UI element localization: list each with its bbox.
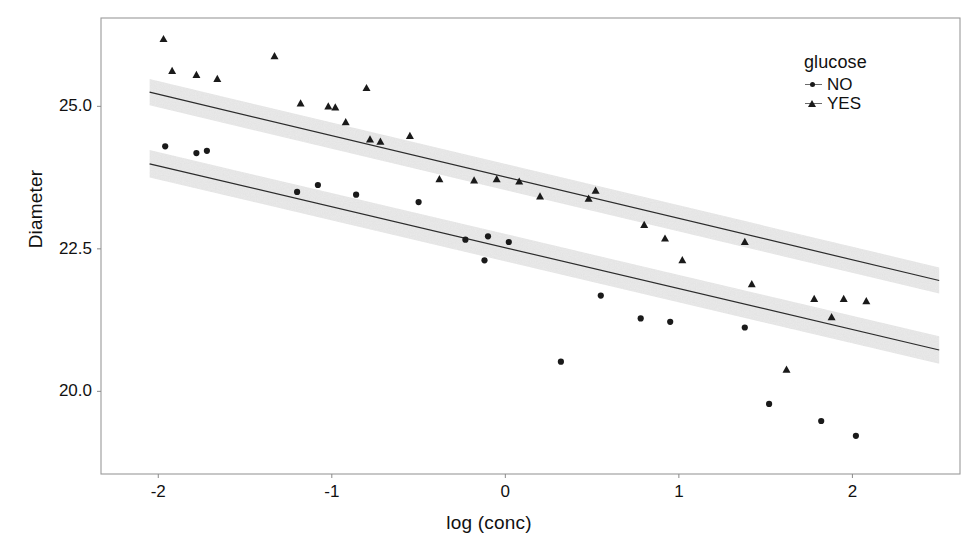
data-point-circle	[353, 192, 359, 198]
y-tick-label: 20.0	[36, 381, 92, 401]
data-point-triangle	[748, 280, 756, 287]
confidence-bands	[150, 79, 940, 364]
data-point-circle	[598, 293, 604, 299]
legend: glucose NOYES	[800, 52, 950, 113]
data-point-triangle	[435, 175, 443, 182]
data-point-triangle	[406, 132, 414, 139]
data-point-circle	[766, 401, 772, 407]
data-point-circle	[638, 315, 644, 321]
data-point-triangle	[168, 67, 176, 74]
data-point-triangle	[661, 234, 669, 241]
x-axis-title: log (conc)	[0, 512, 978, 534]
data-point-triangle	[862, 297, 870, 304]
data-point-circle	[853, 433, 859, 439]
data-point-triangle	[363, 84, 371, 91]
x-tick-label: -2	[138, 482, 178, 502]
scatter-plot-figure: 20.022.525.0 -2-1012 Diameter log (conc)…	[0, 0, 978, 552]
data-point-circle	[742, 324, 748, 330]
data-point-circle	[667, 319, 673, 325]
x-tick-label: -1	[312, 482, 352, 502]
legend-item-yes[interactable]: YES	[804, 94, 950, 113]
data-point-triangle	[193, 71, 201, 78]
data-point-triangle	[810, 295, 818, 302]
x-tick-label: 0	[485, 482, 525, 502]
data-point-circle	[294, 189, 300, 195]
legend-entries: NOYES	[800, 75, 950, 113]
data-point-circle	[481, 257, 487, 263]
data-point-circle	[485, 233, 491, 239]
legend-triangle-icon	[804, 94, 824, 113]
x-tick-label: 2	[832, 482, 872, 502]
data-point-triangle	[297, 99, 305, 106]
data-point-triangle	[160, 35, 168, 42]
y-axis-title: Diameter	[25, 149, 47, 269]
data-point-circle	[204, 148, 210, 154]
data-point-circle	[558, 359, 564, 365]
data-point-circle	[315, 182, 321, 188]
data-point-triangle	[342, 118, 350, 125]
data-point-circle	[193, 150, 199, 156]
data-point-circle	[818, 418, 824, 424]
data-point-triangle	[783, 366, 791, 373]
data-point-circle	[506, 239, 512, 245]
data-point-triangle	[213, 75, 221, 82]
x-tick-label: 1	[659, 482, 699, 502]
legend-title: glucose	[804, 52, 950, 73]
data-point-triangle	[840, 295, 848, 302]
legend-item-no[interactable]: NO	[804, 75, 950, 94]
y-tick-labels: 20.022.525.0	[30, 0, 92, 552]
data-point-triangle	[331, 103, 339, 110]
data-point-triangle	[678, 256, 686, 263]
legend-circle-icon	[804, 75, 824, 94]
data-point-circle	[416, 199, 422, 205]
data-point-triangle	[324, 102, 332, 109]
legend-item-label: YES	[827, 94, 861, 113]
data-point-circle	[462, 237, 468, 243]
data-point-triangle	[271, 52, 279, 59]
legend-item-label: NO	[827, 75, 853, 94]
y-tick-label: 25.0	[36, 96, 92, 116]
x-tick-labels: -2-1012	[0, 482, 978, 512]
data-point-circle	[162, 143, 168, 149]
